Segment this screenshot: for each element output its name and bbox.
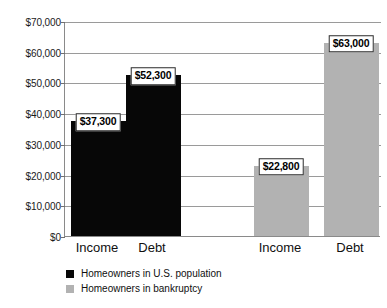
y-axis-tick <box>61 83 65 84</box>
y-axis-tick <box>61 237 65 238</box>
y-axis-tick-label: $30,000 <box>3 139 61 150</box>
x-axis-tick-label: Debt <box>336 240 363 255</box>
bar[interactable] <box>71 121 126 236</box>
bar-value-label: $52,300 <box>131 68 176 86</box>
legend-swatch-icon <box>66 270 74 278</box>
y-axis-tick-label: $0 <box>3 232 61 243</box>
bar-value-label: $37,300 <box>76 114 121 132</box>
y-axis-tick <box>61 176 65 177</box>
x-axis-tick-label: Income <box>76 240 119 255</box>
legend-swatch-icon <box>66 285 74 293</box>
bar[interactable] <box>254 166 309 236</box>
y-axis-tick <box>61 53 65 54</box>
legend-item[interactable]: Homeowners in bankruptcy <box>66 281 222 296</box>
bar-chart: $0$10,000$20,000$30,000$40,000$50,000$60… <box>0 0 387 308</box>
y-axis-tick-label: $40,000 <box>3 109 61 120</box>
y-axis-tick <box>61 22 65 23</box>
x-axis-tick-label: Debt <box>138 240 165 255</box>
y-axis-tick <box>61 145 65 146</box>
chart-legend: Homeowners in U.S. populationHomeowners … <box>66 266 222 296</box>
y-axis-tick <box>61 206 65 207</box>
y-axis-tick <box>61 114 65 115</box>
legend-item[interactable]: Homeowners in U.S. population <box>66 266 222 281</box>
y-axis-tick-label: $20,000 <box>3 170 61 181</box>
y-axis-tick-label: $50,000 <box>3 78 61 89</box>
x-axis-tick-label: Income <box>259 240 302 255</box>
bar-value-label: $22,800 <box>259 158 304 176</box>
bar-value-label: $63,000 <box>329 35 374 53</box>
bar[interactable] <box>324 43 379 237</box>
plot-area: $37,300$52,300$22,800$63,000 <box>64 22 380 237</box>
gridline <box>65 22 381 23</box>
y-axis-tick-label: $70,000 <box>3 17 61 28</box>
y-axis-tick-label: $10,000 <box>3 201 61 212</box>
legend-item-label: Homeowners in U.S. population <box>81 268 222 279</box>
legend-item-label: Homeowners in bankruptcy <box>81 283 202 294</box>
y-axis-tick-label: $60,000 <box>3 47 61 58</box>
bar[interactable] <box>126 75 181 236</box>
